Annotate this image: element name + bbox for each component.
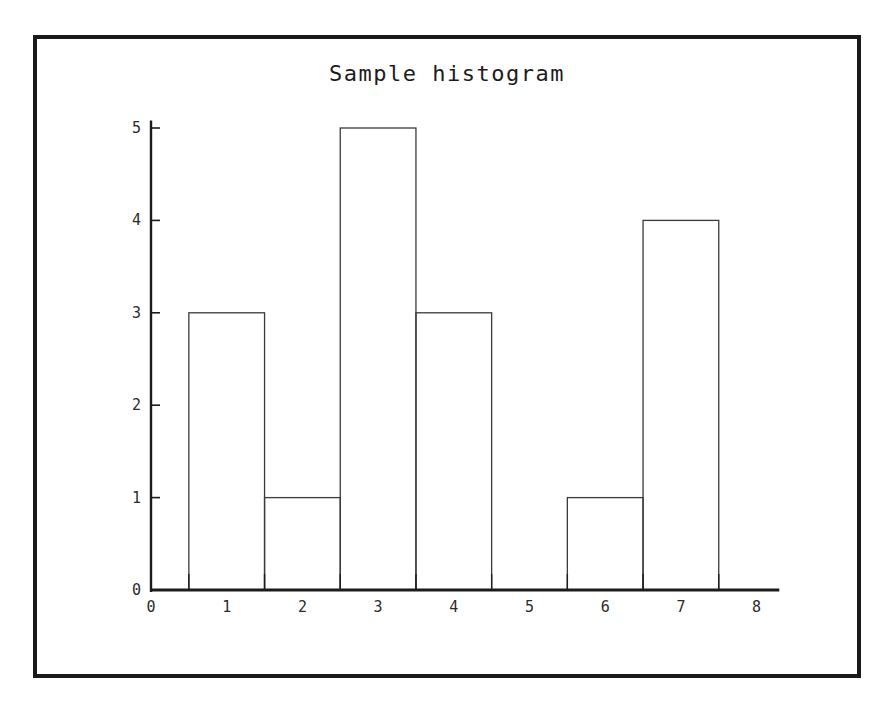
- x-tick-label: 8: [752, 598, 761, 616]
- histogram-svg: 012345678012345: [37, 39, 865, 682]
- axes-group: [151, 121, 779, 592]
- histogram-bar: [189, 313, 265, 590]
- ticks-group: [150, 128, 719, 590]
- y-tick-label: 0: [132, 581, 141, 599]
- x-tick-label: 6: [601, 598, 610, 616]
- y-tick-label: 2: [132, 396, 141, 414]
- bars-group: [189, 128, 719, 590]
- histogram-bar: [643, 220, 719, 590]
- figure-frame: Sample histogram 012345678012345: [33, 35, 861, 678]
- screenshot-canvas: Sample histogram 012345678012345: [0, 0, 891, 709]
- x-tick-label: 1: [222, 598, 231, 616]
- x-tick-label: 2: [298, 598, 307, 616]
- y-tick-label: 5: [132, 119, 141, 137]
- x-tick-label: 0: [146, 598, 155, 616]
- histogram-bar: [416, 313, 492, 590]
- x-tick-label: 7: [676, 598, 685, 616]
- x-tick-label: 3: [374, 598, 383, 616]
- plot-area: 012345678012345: [37, 39, 865, 682]
- y-tick-label: 4: [132, 211, 141, 229]
- histogram-bar: [567, 498, 643, 590]
- tick-labels-group: 012345678012345: [132, 119, 761, 616]
- x-tick-label: 5: [525, 598, 534, 616]
- y-tick-label: 1: [132, 489, 141, 507]
- histogram-bar: [340, 128, 416, 590]
- y-tick-label: 3: [132, 304, 141, 322]
- histogram-bar: [265, 498, 341, 590]
- x-tick-label: 4: [449, 598, 458, 616]
